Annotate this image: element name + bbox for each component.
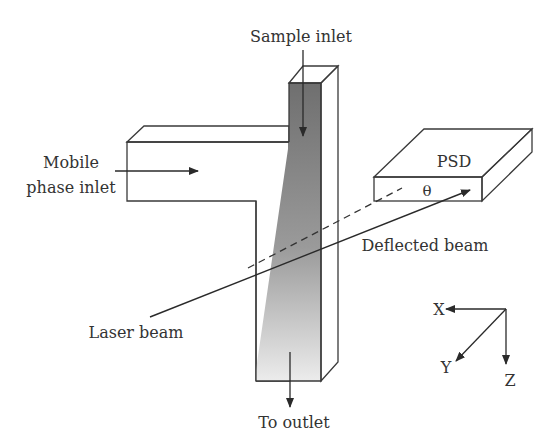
mobile-phase-label-line1: Mobile [43, 153, 99, 172]
y-axis-label: Y [440, 358, 452, 377]
sample-inlet-label: Sample inlet [250, 27, 353, 46]
y-axis-arrow [456, 309, 506, 361]
coordinate-axes: X Y Z [433, 300, 515, 390]
sample-column [256, 66, 338, 381]
mobile-phase-label-line2: phase inlet [26, 178, 116, 197]
laser-beam-label: Laser beam [89, 323, 184, 342]
z-axis-label: Z [504, 371, 515, 390]
diagram-canvas: X Y Z Sample inlet Mobile phase inlet PS… [0, 0, 555, 443]
theta-label: θ [422, 182, 431, 200]
x-axis-label: X [433, 300, 445, 319]
flow-cell-diagram: X Y Z Sample inlet Mobile phase inlet PS… [0, 0, 555, 443]
deflected-beam-label: Deflected beam [361, 236, 488, 255]
psd-label: PSD [437, 152, 472, 171]
undeflected-beam-dashed [248, 188, 402, 268]
to-outlet-label: To outlet [258, 413, 330, 432]
